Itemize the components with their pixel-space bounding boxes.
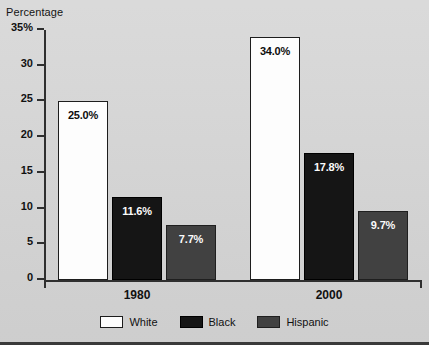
y-axis-tick: 20 — [37, 135, 44, 137]
bar-value-label: 7.7% — [167, 233, 215, 245]
bar-value-label: 9.7% — [359, 219, 407, 231]
y-axis-tick: 0 — [37, 278, 44, 280]
y-axis-line — [44, 30, 46, 280]
bar-white-1980: 25.0% — [58, 101, 108, 280]
bar-value-label: 25.0% — [59, 109, 107, 121]
y-axis-tick-label: 10 — [21, 200, 33, 212]
bar-hispanic-2000: 9.7% — [358, 211, 408, 280]
y-axis-tick-label: 30 — [21, 57, 33, 69]
legend-swatch-icon — [257, 316, 280, 328]
plot-area: 35%30252015105025.0%11.6%7.7%34.0%17.8%9… — [44, 30, 422, 280]
legend-item-black[interactable]: Black — [180, 316, 236, 328]
x-axis-end-tick-right — [420, 281, 422, 288]
y-axis-tick-label: 15 — [21, 164, 33, 176]
bar-black-1980: 11.6% — [112, 197, 162, 280]
y-axis-tick-label: 5 — [27, 235, 33, 247]
y-axis-tick-label: 35% — [11, 21, 33, 33]
bar-value-label: 17.8% — [305, 161, 353, 173]
chart-figure: Percentage 35%30252015105025.0%11.6%7.7%… — [0, 0, 429, 345]
x-axis-group-label-2000: 2000 — [250, 288, 408, 302]
y-axis-tick: 10 — [37, 207, 44, 209]
legend-swatch-icon — [100, 316, 123, 328]
legend-label: Hispanic — [286, 316, 328, 328]
legend-item-white[interactable]: White — [100, 316, 157, 328]
bar-hispanic-1980: 7.7% — [166, 225, 216, 280]
y-axis-tick: 5 — [37, 242, 44, 244]
bar-value-label: 11.6% — [113, 205, 161, 217]
x-axis-end-tick-left — [44, 281, 46, 288]
legend-item-hispanic[interactable]: Hispanic — [257, 316, 328, 328]
legend-label: White — [129, 316, 157, 328]
y-axis-tick: 15 — [37, 171, 44, 173]
bar-white-2000: 34.0% — [250, 37, 300, 280]
x-axis-group-label-1980: 1980 — [58, 288, 216, 302]
y-axis-tick-label: 0 — [27, 271, 33, 283]
bar-black-2000: 17.8% — [304, 153, 354, 280]
y-axis-tick: 25 — [37, 99, 44, 101]
legend-swatch-icon — [180, 316, 203, 328]
x-axis-line — [44, 280, 422, 282]
y-axis-tick-label: 25 — [21, 92, 33, 104]
y-axis-tick: 30 — [37, 64, 44, 66]
legend-label: Black — [209, 316, 236, 328]
bar-value-label: 34.0% — [251, 45, 299, 57]
y-axis-title: Percentage — [6, 6, 63, 18]
y-axis-tick: 35% — [37, 28, 44, 30]
chart-legend: WhiteBlackHispanic — [0, 316, 429, 328]
y-axis-tick-label: 20 — [21, 128, 33, 140]
